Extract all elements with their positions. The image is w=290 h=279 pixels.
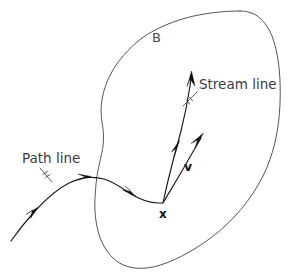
path-line-label: Path line bbox=[22, 152, 80, 166]
diagram-canvas bbox=[0, 0, 290, 279]
region-label-b: B bbox=[152, 31, 161, 44]
stream-line-arrowhead-tip bbox=[187, 71, 195, 87]
stream-line-arrowhead-mid bbox=[172, 141, 180, 157]
stream-line-leader bbox=[183, 92, 197, 106]
path-line-arrowhead-1 bbox=[26, 208, 38, 219]
path-line-arrowhead-2 bbox=[78, 174, 92, 180]
point-label-x: x bbox=[159, 208, 167, 220]
region-boundary-path bbox=[95, 11, 280, 268]
path-line-curve bbox=[11, 177, 163, 241]
path-line-arrowhead-3 bbox=[123, 186, 137, 197]
velocity-vector-arrowhead bbox=[191, 133, 204, 148]
figure-container: B Stream line Path line x v bbox=[0, 0, 290, 279]
path-line-leader bbox=[40, 168, 52, 182]
stream-line-curve bbox=[163, 74, 192, 203]
velocity-label-v: v bbox=[184, 161, 192, 174]
stream-line-label: Stream line bbox=[199, 78, 277, 92]
